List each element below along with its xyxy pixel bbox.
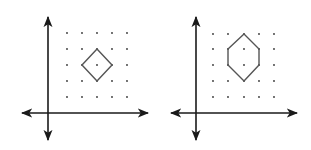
grid-dot [243,48,245,50]
grid-dot [212,48,214,50]
grid-dot [212,33,214,35]
grid-dot [126,80,128,82]
grid-dot [243,96,245,98]
grid-dot [227,33,229,35]
grid-dot [66,80,68,82]
grid-dot [126,48,128,50]
left-grid [22,17,148,140]
grid-dot [227,96,229,98]
dot-grid [66,32,128,98]
grid-dot [258,33,260,35]
grid-dot [96,96,98,98]
grid-dot [212,64,214,66]
grid-dot [126,64,128,66]
grid-dot [111,32,113,34]
grid-dot [212,80,214,82]
grid-dot [126,32,128,34]
grid-dot [66,32,68,34]
hexagon-shape [228,34,259,81]
grid-dot [81,96,83,98]
grid-dot [111,80,113,82]
grid-dot [126,96,128,98]
grid-dot [111,48,113,50]
grid-dot [212,96,214,98]
grid-dot [111,96,113,98]
dot-grid [212,33,275,98]
grid-dot [258,96,260,98]
grid-dot [273,80,275,82]
grid-dot [81,80,83,82]
right-grid [171,17,297,140]
grid-dot [258,80,260,82]
grid-dot [81,32,83,34]
grid-dot [273,33,275,35]
grid-dot [273,64,275,66]
grid-dot [66,64,68,66]
figure-canvas [0,0,311,150]
grid-dot [273,96,275,98]
grid-dot [66,48,68,50]
grid-dot [96,64,98,66]
grid-dot [227,80,229,82]
grid-dot [81,48,83,50]
grid-dot [66,96,68,98]
grid-dot [243,64,245,66]
grid-dot [273,48,275,50]
grid-dot [96,32,98,34]
